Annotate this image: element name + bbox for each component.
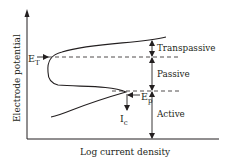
y-axis-label: Electrode potential	[12, 34, 22, 122]
i-c-label: Ic	[120, 113, 128, 127]
y-axis-arrow-icon	[25, 9, 30, 17]
x-axis-label: Log current density	[80, 147, 171, 157]
transpassive-label: Transpassive	[157, 43, 215, 53]
passive-label: Passive	[157, 69, 190, 79]
polarization-diagram: ET Ep Ic Transpassive Passive Active Log…	[0, 0, 230, 161]
anodic-polarization-curve	[48, 37, 166, 117]
e-p-label: Ep	[141, 91, 153, 105]
e-t-label: ET	[28, 53, 40, 67]
active-label: Active	[156, 109, 185, 119]
